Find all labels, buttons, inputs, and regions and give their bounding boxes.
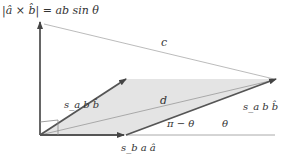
label-pi-minus-theta: π − θ: [166, 118, 194, 129]
label-d: d: [160, 94, 167, 107]
label-c: c: [161, 36, 167, 49]
label-theta: θ: [222, 118, 228, 129]
label-sa-b-right: s_a b b̂: [243, 100, 278, 113]
line-c: [44, 24, 274, 79]
cross-product-diagram: |â × b̂| = ab sin θ c d s_a b b̂ s_b a â…: [0, 0, 297, 155]
label-sb-a: s_b a â: [121, 142, 156, 154]
label-sa-b: s_a b b̂: [64, 98, 99, 111]
formula-label: |â × b̂| = ab sin θ: [2, 3, 99, 18]
